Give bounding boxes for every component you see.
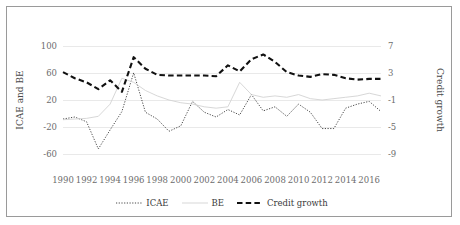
plot-area [63,32,381,168]
legend-label: ICAE [146,199,168,208]
right-axis-title: Credit growth [435,68,444,132]
legend-swatch-icon [116,199,142,207]
right-tick-label: -5 [388,123,412,132]
left-tick-label: -20 [25,123,57,132]
left-tick-label: 100 [25,42,57,51]
legend-label: BE [212,199,224,208]
legend-item-credit-growth[interactable]: Credit growth [237,199,328,208]
right-tick-label: 7 [388,42,412,51]
chart-frame: ICAE and BE Credit growth 1006020-20-60 … [6,6,452,217]
right-tick-label: 3 [388,69,412,78]
legend-swatch-icon [182,199,208,207]
legend-item-be[interactable]: BE [182,199,224,208]
left-tick-label: -60 [25,150,57,159]
left-tick-label: 20 [25,96,57,105]
left-axis-title: ICAE and BE [16,70,25,129]
right-tick-label: -9 [388,150,412,159]
series-line-icae [63,73,381,149]
series-layer [63,32,381,168]
right-tick-label: -1 [388,96,412,105]
x-tick-label: 2016 [353,176,385,185]
left-tick-label: 60 [25,69,57,78]
chart-legend: ICAEBECredit growth [63,199,381,208]
legend-item-icae[interactable]: ICAE [116,199,168,208]
legend-swatch-icon [237,199,263,207]
legend-label: Credit growth [267,199,328,208]
chart-canvas [63,32,381,168]
series-line-credit-growth [63,54,381,91]
